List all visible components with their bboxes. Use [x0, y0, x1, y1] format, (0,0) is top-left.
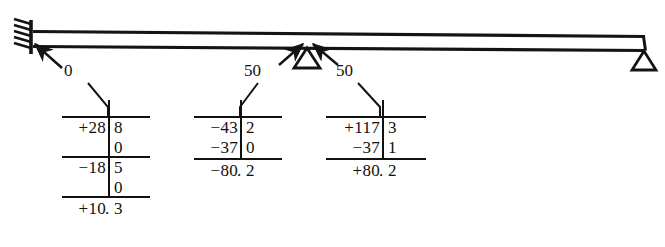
row-integer: +117 [322, 118, 380, 138]
callout-middle-right-label: 50 [336, 62, 353, 80]
moment-table-right: +117 3 −37 1 +80 . 2 [322, 116, 432, 198]
row-decimal: 1 [388, 138, 397, 158]
leader-line-middle [240, 83, 258, 118]
rule-total [326, 158, 426, 160]
table-row: −37 0 [190, 138, 286, 158]
fixed-support-icon [14, 19, 31, 54]
callout-middle-left-label: 50 [244, 62, 261, 80]
total-decimal: 3 [114, 199, 123, 219]
table-row: −43 2 [190, 118, 286, 138]
table-row: +28 8 [58, 118, 154, 138]
total-decimal: 2 [388, 161, 397, 181]
row-integer: +28 [58, 118, 106, 138]
beam-member [33, 32, 646, 51]
row-decimal: 3 [388, 118, 397, 138]
decimal-point: . [105, 199, 109, 219]
row-decimal: 8 [114, 118, 123, 138]
total-integer: −80 [190, 161, 238, 181]
interior-roller-support-icon [294, 48, 320, 68]
rule-total [194, 158, 282, 160]
row-integer: −18 [58, 158, 106, 178]
row-decimal: 5 [114, 158, 123, 178]
table-row: −37 1 [322, 138, 432, 158]
leader-line-right [358, 83, 380, 118]
row-integer: −37 [190, 138, 238, 158]
row-decimal: 0 [246, 138, 255, 158]
table-row: −18 5 [58, 158, 154, 178]
total-integer: +10 [58, 199, 106, 219]
decimal-point: . [379, 161, 383, 181]
end-roller-support-icon [632, 51, 656, 70]
total-decimal: 2 [246, 161, 255, 181]
moment-table-left: +28 8 0 −18 5 0 +10 . 3 [58, 116, 154, 238]
moment-table-middle: −43 2 −37 0 −80 . 2 [190, 116, 286, 198]
row-integer: −43 [190, 118, 238, 138]
leader-line-left [88, 83, 108, 118]
row-decimal: 2 [246, 118, 255, 138]
table-total-row: +10 . 3 [58, 199, 154, 219]
table-total-row: −80 . 2 [190, 161, 286, 181]
table-total-row: +80 . 2 [322, 161, 432, 181]
row-decimal: 0 [114, 138, 123, 158]
table-row: 0 [58, 138, 154, 158]
row-decimal: 0 [114, 178, 123, 198]
table-row: 0 [58, 178, 154, 198]
callout-left-label: 0 [64, 62, 73, 80]
decimal-point: . [237, 161, 241, 181]
total-integer: +80 [322, 161, 380, 181]
row-integer: −37 [322, 138, 380, 158]
table-row: +117 3 [322, 118, 432, 138]
